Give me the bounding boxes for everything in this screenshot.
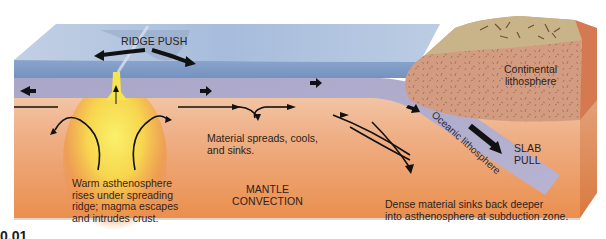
label-warm-line-3: ridge; magma escapes xyxy=(72,201,178,213)
label-mantle-convection: MANTLE CONVECTION xyxy=(232,184,303,207)
ocean-water-layer xyxy=(14,60,420,78)
label-continental-line-1: Continental xyxy=(504,64,557,76)
figure-number: 0.01 xyxy=(0,229,27,239)
label-dense-material: Dense material sinks back deeper into as… xyxy=(385,199,568,222)
label-slab-pull: SLAB PULL xyxy=(514,143,541,166)
ocean-top-surface xyxy=(14,24,440,62)
label-warm-line-4: and intrudes crust. xyxy=(72,213,178,225)
label-dense-line-1: Dense material sinks back deeper xyxy=(385,199,568,211)
label-slab-pull-line-2: PULL xyxy=(514,155,541,167)
label-continental-line-2: lithosphere xyxy=(504,76,557,88)
label-dense-line-2: into asthenosphere at subduction zone. xyxy=(385,211,568,223)
label-material-spreads-line-1: Material spreads, cools, xyxy=(207,133,318,145)
label-mantle-line-1: MANTLE xyxy=(232,184,303,196)
label-continental-lithosphere: Continental lithosphere xyxy=(504,64,557,87)
label-ridge-push: RIDGE PUSH xyxy=(121,36,187,48)
label-material-spreads-line-2: and sinks. xyxy=(207,145,318,157)
label-slab-pull-line-1: SLAB xyxy=(514,143,541,155)
label-convection-line-2: CONVECTION xyxy=(232,196,303,208)
label-warm-line-1: Warm asthenosphere xyxy=(72,178,178,190)
label-warm-asthenosphere: Warm asthenosphere rises under spreading… xyxy=(72,178,178,224)
label-material-spreads: Material spreads, cools, and sinks. xyxy=(207,133,318,156)
